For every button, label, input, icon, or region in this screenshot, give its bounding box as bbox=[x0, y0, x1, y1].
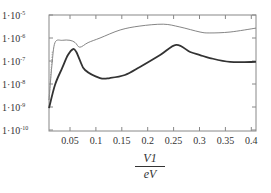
x-axis-label: V1 eV bbox=[135, 152, 165, 181]
y-tick-label: 1·10-9 bbox=[2, 102, 25, 113]
x-tick-label: 0.05 bbox=[61, 135, 79, 146]
x-tick-label: 0.2 bbox=[141, 135, 154, 146]
x-tick-label: 0.4 bbox=[245, 135, 258, 146]
y-tick-label: 1·10-6 bbox=[2, 33, 25, 44]
x-tick-label: 0.3 bbox=[193, 135, 206, 146]
y-tick-label: 1·10-7 bbox=[2, 56, 25, 67]
x-tick-label: 0.35 bbox=[217, 135, 235, 146]
series-line-lower bbox=[49, 45, 256, 108]
data-series bbox=[49, 24, 256, 108]
y-tick-label: 1·10-10 bbox=[2, 125, 28, 136]
x-tick-label: 0.25 bbox=[165, 135, 183, 146]
x-tick-label: 0.1 bbox=[90, 135, 103, 146]
x-axis-label-denominator: eV bbox=[135, 167, 165, 181]
y-tick-label: 1·10-8 bbox=[2, 79, 25, 90]
y-tick-label: 1·10-5 bbox=[2, 10, 25, 21]
x-tick-label: 0.15 bbox=[113, 135, 131, 146]
x-axis-label-numerator: V1 bbox=[135, 152, 165, 167]
x-axis-ticks: 0.050.10.150.20.250.30.350.4 bbox=[61, 15, 257, 146]
